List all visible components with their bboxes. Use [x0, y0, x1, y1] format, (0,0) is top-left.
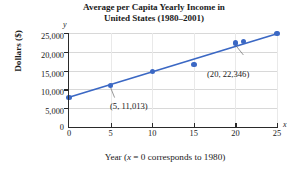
- y-tick-label-25000: 25,000: [24, 33, 64, 41]
- annotation-point-20: (20, 22,346): [207, 70, 249, 79]
- x-axis-title-pre: Year (: [105, 152, 127, 162]
- data-point-20: [233, 40, 238, 45]
- y-axis-line: [68, 33, 69, 128]
- x-axis-title-post: = 0 corresponds to 1980): [131, 152, 225, 162]
- trend-line: [69, 33, 277, 127]
- x-tick-25: [277, 123, 278, 128]
- chart-title-line-2: United States (1980–2001): [104, 13, 204, 23]
- x-tick-label-0: 0: [56, 130, 82, 138]
- x-axis-line: [68, 127, 278, 128]
- y-axis-title: Dollars ($): [13, 5, 23, 97]
- chart-title-line-1: Average per Capita Yearly Income in: [83, 2, 225, 12]
- x-tick-15: [194, 123, 195, 128]
- data-point-25: [274, 31, 279, 36]
- x-tick-20: [235, 123, 236, 128]
- data-point-15: [191, 62, 196, 67]
- y-tick-label-20000: 20,000: [24, 52, 64, 60]
- x-tick-10: [152, 123, 153, 128]
- y-tick-label-5000: 5,000: [24, 108, 64, 116]
- data-point-10: [150, 69, 155, 74]
- annotation-point-5: (5, 11,013): [110, 102, 148, 111]
- y-tick-label-15000: 15,000: [24, 71, 64, 79]
- x-tick-5: [111, 123, 112, 128]
- x-tick-label-20: 20: [222, 130, 248, 138]
- chart-figure: Average per Capita Yearly Income in Unit…: [0, 0, 302, 174]
- chart-title: Average per Capita Yearly Income in Unit…: [50, 2, 258, 25]
- x-tick-label-15: 15: [181, 130, 207, 138]
- x-axis-title: Year (x = 0 corresponds to 1980): [50, 152, 280, 162]
- x-tick-label-25: 25: [264, 130, 290, 138]
- y-tick-label-10000: 10,000: [24, 89, 64, 97]
- x-tick-label-10: 10: [139, 130, 165, 138]
- x-tick-label-5: 5: [98, 130, 124, 138]
- plot-area: [69, 33, 277, 127]
- y-axis-variable-label: y: [63, 20, 67, 29]
- x-axis-variable-label: x: [283, 120, 287, 129]
